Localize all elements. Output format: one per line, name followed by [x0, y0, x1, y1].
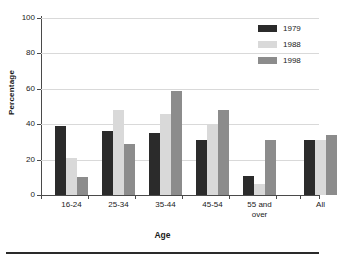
bar-1979-45-54 — [196, 140, 207, 195]
x-tick-mark — [300, 195, 301, 199]
y-tick-mark — [37, 124, 41, 125]
x-tick-mark — [182, 195, 183, 199]
bar-1979-25-34 — [102, 131, 113, 195]
x-axis-title: Age — [0, 230, 325, 240]
bar-1979-35-44 — [149, 133, 160, 195]
y-tick-label: 60 — [8, 85, 35, 93]
legend-label: 1979 — [283, 24, 301, 33]
legend-label: 1998 — [283, 56, 301, 65]
bar-1998-35-44 — [171, 91, 182, 195]
bar-group — [102, 18, 135, 195]
bar-group — [55, 18, 88, 195]
bar-1988-16-24 — [66, 158, 77, 195]
x-tick-mark — [276, 195, 277, 199]
x-tick-label-line2: over — [230, 210, 290, 220]
bar-1998-55-and-over — [265, 140, 276, 195]
y-tick-mark — [37, 18, 41, 19]
x-tick-mark — [135, 195, 136, 199]
x-tick-label-line1: 55 and — [230, 200, 290, 210]
bar-1998-All — [326, 135, 337, 195]
x-axis-line — [41, 195, 319, 196]
bar-1979-55-and-over — [243, 176, 254, 195]
bar-1979-All — [304, 140, 315, 195]
legend-item-1998: 1998 — [258, 56, 320, 65]
x-tick-mark — [41, 195, 42, 199]
x-tick-mark — [229, 195, 230, 199]
legend-swatch — [258, 41, 277, 48]
bar-1988-25-34 — [113, 110, 124, 195]
legend-swatch — [258, 25, 277, 32]
bar-1998-45-54 — [218, 110, 229, 195]
bar-1988-45-54 — [207, 124, 218, 195]
y-tick-mark — [37, 53, 41, 54]
bar-1988-All — [315, 140, 326, 195]
legend-label: 1988 — [283, 40, 301, 49]
y-tick-label: 100 — [8, 14, 35, 22]
bar-1988-55-and-over — [254, 184, 265, 195]
x-tick-mark — [88, 195, 89, 199]
legend-swatch — [258, 57, 277, 64]
legend-item-1979: 1979 — [258, 24, 320, 33]
x-tick-mark — [319, 195, 320, 199]
y-tick-mark — [37, 160, 41, 161]
y-tick-label: 80 — [8, 49, 35, 57]
bar-group — [196, 18, 229, 195]
bar-1998-25-34 — [124, 144, 135, 195]
x-tick-label-line1: All — [291, 200, 341, 210]
y-tick-mark — [37, 89, 41, 90]
bar-1979-16-24 — [55, 126, 66, 195]
bar-group — [149, 18, 182, 195]
y-tick-label: 20 — [8, 156, 35, 164]
y-tick-label: 40 — [8, 120, 35, 128]
y-tick-label: 0 — [8, 191, 35, 199]
footer-divider — [6, 252, 319, 254]
x-tick-label: All — [291, 200, 341, 210]
bar-1988-35-44 — [160, 114, 171, 195]
legend-item-1988: 1988 — [258, 40, 320, 49]
x-tick-label: 55 andover — [230, 200, 290, 219]
bar-1998-16-24 — [77, 177, 88, 195]
